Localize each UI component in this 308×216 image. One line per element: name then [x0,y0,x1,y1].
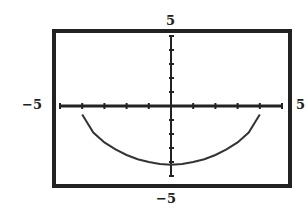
axes [60,36,282,176]
graph-plot [0,0,308,216]
